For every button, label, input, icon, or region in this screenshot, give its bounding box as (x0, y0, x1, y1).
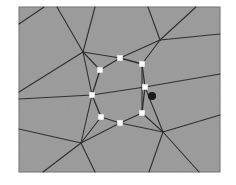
figure-root: Polygonal mesh with central vertex ring (0, 0, 236, 185)
mesh-diagram (0, 0, 236, 185)
panel-grain-overlay (19, 7, 220, 172)
